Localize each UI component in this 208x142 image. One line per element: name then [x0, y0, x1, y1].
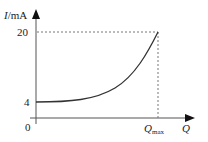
- y-axis-arrow-icon: [32, 9, 40, 19]
- x-axis-label: Q: [182, 123, 190, 134]
- x-axis-arrow-icon: [185, 114, 195, 122]
- origin-label: 0: [25, 122, 31, 133]
- y-axis-label: I/mA: [4, 10, 27, 21]
- chart-canvas: [0, 0, 208, 142]
- x-tick-qmax: Qmax: [144, 123, 164, 136]
- y-tick-20: 20: [17, 27, 28, 38]
- y-tick-4: 4: [24, 97, 30, 108]
- data-curve: [36, 32, 158, 102]
